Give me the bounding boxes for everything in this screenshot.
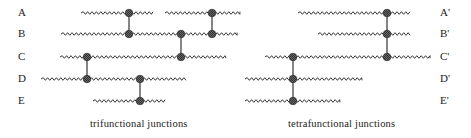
caption-tetrafunctional: tetrafunctional junctions <box>288 118 395 129</box>
row-label-c: C <box>18 50 25 62</box>
polymer-chain <box>93 100 165 103</box>
caption-trifunctional: trifunctional junctions <box>90 118 188 129</box>
junction-node-icon <box>208 30 216 38</box>
junction-node-icon <box>289 53 297 61</box>
junction-node-icon <box>136 97 144 105</box>
junction-node-icon <box>383 9 391 17</box>
junction-node-icon <box>289 75 297 83</box>
row-label-e: E <box>18 94 25 106</box>
row-label-d-prime: D' <box>440 72 450 84</box>
junction-node-icon <box>177 53 185 61</box>
junction-node-icon <box>383 53 391 61</box>
polymer-chain <box>318 33 410 36</box>
junction-node-icon <box>136 75 144 83</box>
row-label-a-prime: A' <box>440 6 450 18</box>
polymer-chain <box>41 78 186 81</box>
polymer-chain <box>81 12 153 15</box>
junction-node-icon <box>208 9 216 17</box>
junction-node-icon <box>289 97 297 105</box>
row-label-a: A <box>18 6 26 18</box>
junction-node-icon <box>125 30 133 38</box>
polymer-chain <box>165 12 240 15</box>
polymer-chain <box>298 12 410 15</box>
junction-node-icon <box>83 53 91 61</box>
polymer-chain <box>245 78 362 81</box>
junction-diagram <box>0 0 471 138</box>
junction-node-icon <box>383 30 391 38</box>
junction-node-icon <box>177 30 185 38</box>
junction-node-icon <box>125 9 133 17</box>
row-label-b-prime: B' <box>440 27 449 39</box>
row-label-c-prime: C' <box>440 50 449 62</box>
junction-node-icon <box>83 75 91 83</box>
row-label-d: D <box>18 72 26 84</box>
row-label-b: B <box>18 27 25 39</box>
row-label-e-prime: E' <box>440 94 449 106</box>
